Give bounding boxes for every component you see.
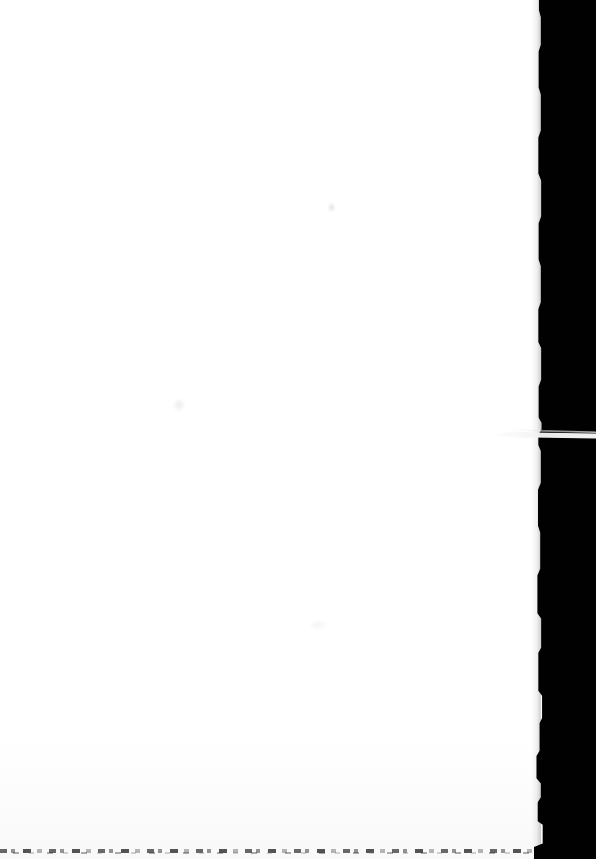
scanner-background-band — [534, 0, 596, 859]
page-text-body — [0, 0, 545, 859]
page-sheet — [0, 0, 545, 859]
scanned-page-canvas — [0, 0, 596, 859]
bottom-edge-speckle-fine — [0, 852, 545, 854]
